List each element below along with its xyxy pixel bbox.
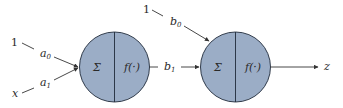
neuron-1: Σ f(·) (80, 32, 150, 102)
sum-symbol-2: Σ (213, 61, 222, 74)
weight-a0: a0 (40, 47, 52, 61)
x-input: x (12, 87, 19, 100)
activation-function-2: f(·) (244, 61, 261, 74)
weight-a1: a1 (40, 76, 51, 90)
activation-function-1: f(·) (123, 61, 140, 74)
output-z: z (323, 60, 330, 73)
sum-symbol-1: Σ (92, 61, 101, 74)
weight-b0: b0 (170, 15, 182, 29)
neuron-2: Σ f(·) (201, 32, 271, 102)
bias-input-2: 1 (143, 3, 150, 16)
bias-input-1: 1 (11, 36, 18, 49)
neural-network-diagram: 1 x a0 a1 Σ f(·) b1 1 b0 Σ f(·) z (0, 0, 343, 108)
weight-b1: b1 (164, 60, 176, 74)
